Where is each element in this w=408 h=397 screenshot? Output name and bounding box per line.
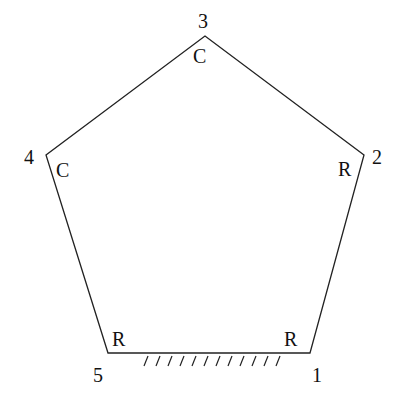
- pentagon-outline: [46, 36, 364, 353]
- joint-type-3: C: [193, 45, 206, 67]
- joint-type-1: R: [284, 328, 298, 350]
- joint-type-5: R: [112, 328, 126, 350]
- vertex-label-4: 4: [24, 146, 34, 168]
- ground-hatch: [144, 356, 280, 366]
- joint-type-2: R: [338, 158, 352, 180]
- vertex-label-2: 2: [372, 146, 382, 168]
- vertex-label-5: 5: [93, 364, 103, 386]
- vertex-label-3: 3: [198, 10, 208, 32]
- pentagon-diagram: 3 4 2 5 1 C C R R R: [0, 0, 408, 397]
- vertex-label-1: 1: [312, 364, 322, 386]
- joint-type-4: C: [56, 159, 69, 181]
